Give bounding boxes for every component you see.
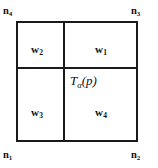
- weight-symbol-w3: w: [31, 106, 39, 118]
- weight-subscript-w1: 1: [103, 48, 107, 57]
- weight-symbol-w2: w: [31, 43, 39, 55]
- node-label-n4: n4: [3, 6, 12, 17]
- node-symbol-n2: n: [131, 149, 137, 160]
- point-argument: (p): [82, 73, 97, 88]
- weight-label-w1: w1: [95, 44, 107, 55]
- weight-label-w3: w3: [31, 107, 43, 118]
- cell-square: w2 w1 w3 w4 Tα(p): [16, 21, 138, 142]
- node-subscript-n2: 2: [137, 154, 141, 162]
- weight-label-w2: w2: [31, 44, 43, 55]
- weight-symbol-w4: w: [95, 106, 103, 118]
- node-label-n2: n2: [131, 150, 140, 161]
- node-symbol-n3: n: [131, 5, 137, 16]
- node-symbol-n4: n: [3, 5, 9, 16]
- node-subscript-n3: 3: [137, 10, 141, 18]
- weight-subscript-w4: 4: [103, 111, 107, 120]
- point-subscript-alpha: α: [77, 80, 81, 90]
- node-subscript-n1: 1: [9, 154, 13, 162]
- weight-subscript-w3: 3: [39, 111, 43, 120]
- node-label-n1: n1: [3, 150, 12, 161]
- weight-subscript-w2: 2: [39, 48, 43, 57]
- vertical-divider-line: [63, 23, 65, 140]
- node-symbol-n1: n: [3, 149, 9, 160]
- weight-label-w4: w4: [95, 107, 107, 118]
- node-label-n3: n3: [131, 6, 140, 17]
- horizontal-divider-line: [18, 67, 136, 69]
- bilinear-interpolation-diagram: w2 w1 w3 w4 Tα(p) n4 n3 n1 n2: [0, 0, 158, 168]
- node-subscript-n4: 4: [9, 10, 13, 18]
- point-transform-label: Tα(p): [70, 74, 97, 87]
- weight-symbol-w1: w: [95, 43, 103, 55]
